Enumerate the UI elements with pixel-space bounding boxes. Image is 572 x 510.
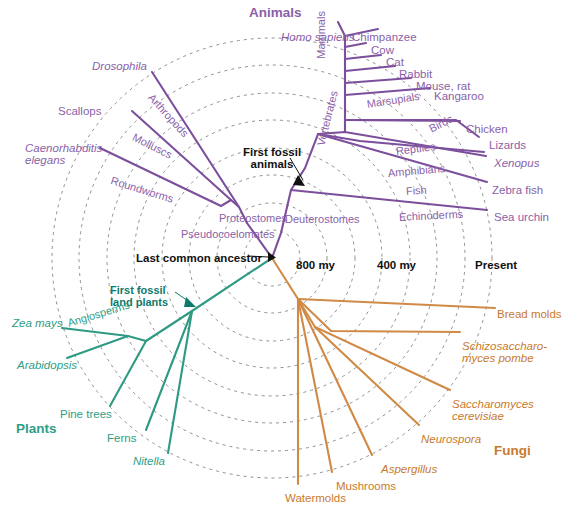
- kingdom-title-plants: Plants: [16, 422, 57, 436]
- taxon-fungus-4: Aspergillus: [381, 463, 437, 475]
- taxon-plant-4: Nitella: [133, 455, 165, 467]
- kingdom-title-animals: Animals: [249, 6, 302, 20]
- taxon-plant-0: Zea mays: [12, 317, 63, 329]
- taxon-animal-8: Lizards: [489, 139, 526, 151]
- taxon-animal-3: Cat: [386, 56, 404, 68]
- taxon-fungus-0: Bread molds: [497, 308, 562, 320]
- taxon-fungus-1: Schizosaccharo- myces pombe: [462, 340, 554, 364]
- taxon-animal-4: Rabbit: [399, 68, 432, 80]
- annotation-first-fossil-animals: First fossil animals: [241, 146, 303, 170]
- annotation-last-common-ancestor: Last common ancestor: [136, 252, 262, 264]
- taxon-animal-9: Xenopus: [494, 157, 539, 169]
- clade-animal-10: Pseudocoelomates: [181, 229, 275, 241]
- kingdom-title-fungi: Fungi: [494, 444, 531, 458]
- tree-canvas: [0, 0, 572, 510]
- taxon-animal-6: Kangaroo: [434, 90, 484, 102]
- taxon-animal-2: Cow: [371, 44, 394, 56]
- time-tick-2: Present: [475, 259, 517, 271]
- taxon-plant-3: Ferns: [107, 432, 136, 444]
- clade-animal-8: Deuterostomes: [285, 214, 360, 226]
- taxon-animal-10: Zebra fish: [492, 184, 543, 196]
- taxon-plant-2: Pine trees: [60, 408, 112, 420]
- phylogenetic-tree-figure: Animals Plants Fungi 800 my400 myPresent…: [0, 0, 572, 510]
- taxon-plant-1: Arabidopsis: [17, 359, 77, 371]
- clade-animal-9: Proteostomes: [219, 213, 287, 225]
- fungi-branches: [272, 258, 495, 484]
- taxon-animal-7: Chicken: [466, 123, 508, 135]
- taxon-animal-12: Drosophila: [92, 60, 147, 72]
- taxon-animal-14: Caenorhabditis elegans: [25, 142, 91, 166]
- taxon-animal-1: Chimpanzee: [352, 31, 417, 43]
- taxon-fungus-5: Mushrooms: [336, 480, 396, 492]
- taxon-fungus-6: Watermolds: [285, 492, 346, 504]
- time-tick-0: 800 my: [296, 259, 335, 271]
- taxon-animal-11: Sea urchin: [494, 211, 549, 223]
- taxon-animal-13: Scallops: [58, 105, 101, 117]
- taxon-fungus-2: Saccharomyces cerevisiae: [452, 398, 546, 422]
- time-tick-1: 400 my: [377, 259, 416, 271]
- clade-animal-0: Mammals: [316, 11, 328, 59]
- clade-animal-5: Fish: [406, 185, 428, 198]
- taxon-fungus-3: Neurospora: [421, 433, 481, 445]
